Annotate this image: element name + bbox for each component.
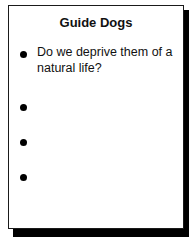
bullet-icon bbox=[20, 139, 27, 146]
slide-title: Guide Dogs bbox=[9, 15, 183, 30]
slide-card: Guide Dogs Do we deprive them of a natur… bbox=[8, 5, 184, 229]
bullet-icon bbox=[20, 174, 27, 181]
bullet-icon bbox=[20, 51, 27, 58]
bullet-text-1: Do we deprive them of a natural life? bbox=[37, 44, 177, 76]
bullet-icon bbox=[20, 104, 27, 111]
